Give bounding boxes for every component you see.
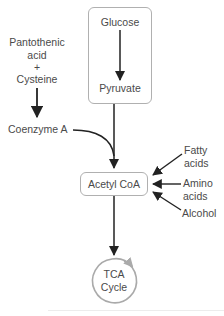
fatty-acids-label: acids [184,157,209,169]
arrow-alcohol-acetyl [153,192,181,210]
acid-label: acid [27,49,46,61]
acetyl-coa-diagram: Glucose Pyruvate Pantothenic acid + Cyst… [0,0,224,316]
arrow-coenzyme-acetyl [73,130,114,156]
tca-label: TCA [104,268,125,280]
alcohol-label: Alcohol [182,207,216,219]
fatty-label: Fatty [184,144,207,156]
coenzyme-a-label: Coenzyme A [8,123,68,135]
cycle-label: Cycle [101,281,127,293]
pyruvate-label: Pyruvate [99,82,140,94]
glucose-label: Glucose [101,16,140,28]
amino-acids-label: acids [183,190,208,202]
acetyl-coa-label: Acetyl CoA [88,178,140,190]
amino-label: Amino [183,177,213,189]
plus-label: + [34,61,40,73]
arrow-fatty-acetyl [153,154,182,175]
bottom-rule [48,310,224,311]
cysteine-label: Cysteine [17,73,58,85]
pantothenic-label: Pantothenic [9,36,64,48]
